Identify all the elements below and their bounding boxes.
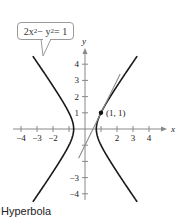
figure-caption: Hyperbola [1,205,51,217]
